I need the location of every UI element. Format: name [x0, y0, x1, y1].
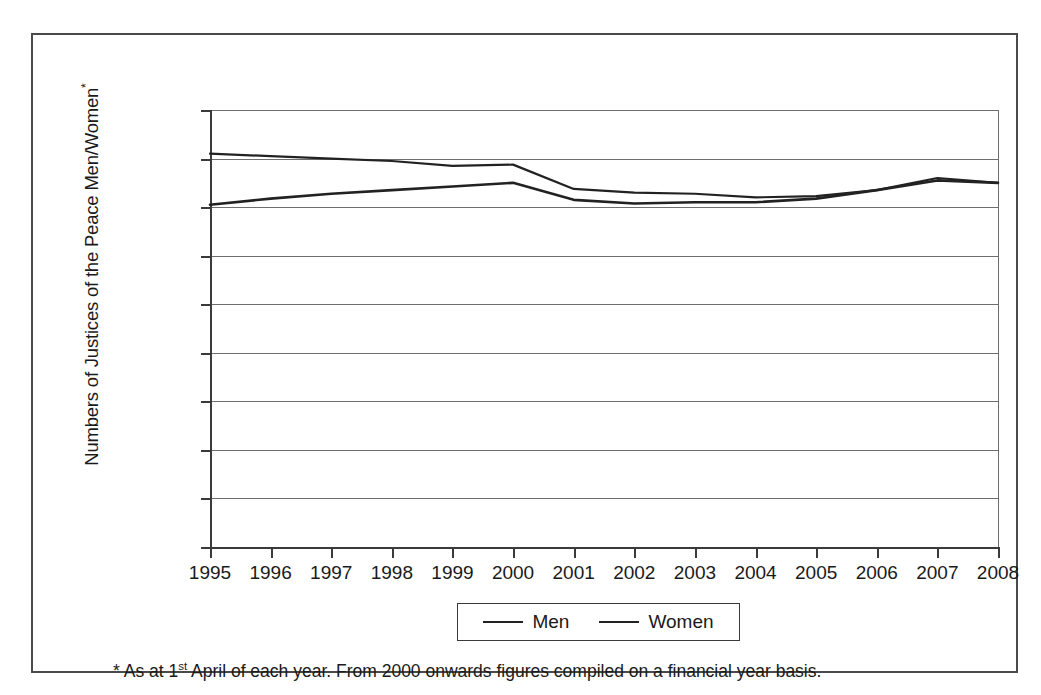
y-axis-tick-mark	[201, 110, 210, 112]
footnote-part1: * As at 1	[113, 661, 178, 681]
legend-item-women: Women	[599, 611, 713, 633]
chart-figure: Numbers of Justices of the Peace Men/Wom…	[0, 0, 1041, 695]
chart-legend: Men Women	[457, 603, 740, 641]
y-axis-title-footnote-marker: *	[79, 83, 93, 87]
y-axis-tick-mark	[201, 159, 210, 161]
figure-frame: Numbers of Justices of the Peace Men/Wom…	[31, 33, 1018, 673]
y-axis-tick-mark	[201, 207, 210, 209]
x-axis-tick-label: 2008	[953, 562, 1041, 584]
plot-area: 02,0004,0006,0008,00010,00012,00014,0001…	[210, 110, 998, 547]
legend-line-icon-men	[483, 621, 523, 623]
y-axis-tick-mark	[201, 450, 210, 452]
legend-label-men: Men	[532, 611, 569, 633]
legend-line-icon-women	[599, 621, 639, 623]
plot-right-border	[998, 110, 999, 547]
y-axis-tick-mark	[201, 353, 210, 355]
x-axis-line	[210, 547, 998, 549]
y-axis-tick-mark	[201, 547, 210, 549]
footnote-part2: April of each year. From 2000 onwards fi…	[187, 661, 821, 681]
legend-label-women: Women	[648, 611, 713, 633]
y-axis-tick-mark	[201, 498, 210, 500]
line-series-women	[210, 180, 998, 204]
legend-item-men: Men	[483, 611, 569, 633]
y-axis-title-text: Numbers of Justices of the Peace Men/Wom…	[81, 88, 102, 466]
data-series-layer	[210, 110, 998, 547]
x-axis-tick-mark	[998, 547, 1000, 558]
y-axis-title: Numbers of Justices of the Peace Men/Wom…	[79, 65, 102, 485]
footnote-ordinal-suffix: st	[178, 660, 187, 672]
chart-footnote: * As at 1st April of each year. From 200…	[113, 660, 821, 682]
y-axis-tick-mark	[201, 401, 210, 403]
y-axis-tick-mark	[201, 304, 210, 306]
y-axis-tick-mark	[201, 256, 210, 258]
